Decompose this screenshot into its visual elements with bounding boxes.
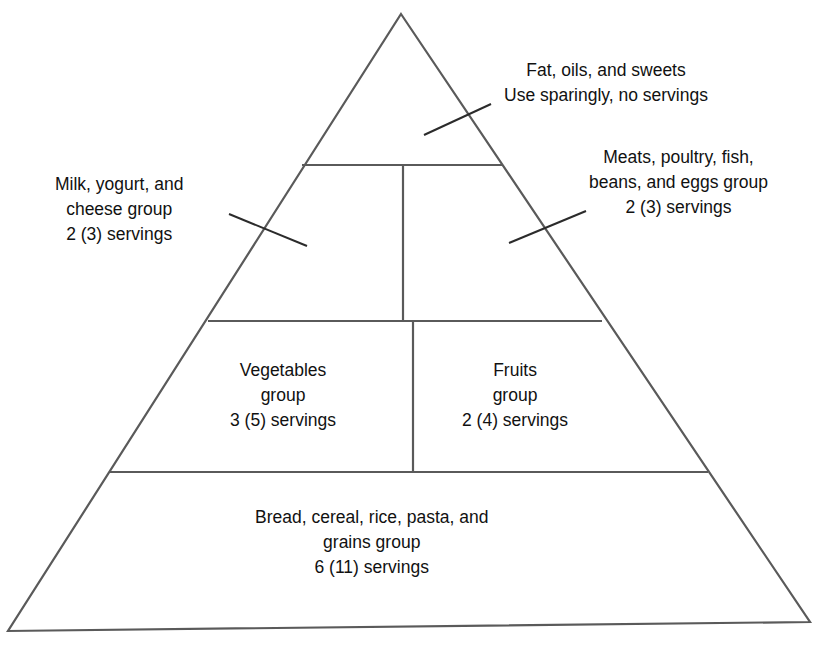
label-grains-line1: Bread, cereal, rice, pasta, and <box>255 505 488 530</box>
label-milk-line1: Milk, yogurt, and <box>55 172 183 197</box>
label-milk-group: Milk, yogurt, and cheese group 2 (3) ser… <box>55 172 183 247</box>
label-meats-servings: 2 (3) servings <box>589 195 768 220</box>
label-grains-line2: grains group <box>255 530 488 555</box>
label-fats-oils-sweets: Fat, oils, and sweets Use sparingly, no … <box>504 58 708 108</box>
label-milk-line2: cheese group <box>55 197 183 222</box>
label-vegetables-group: Vegetables group 3 (5) servings <box>230 358 336 433</box>
label-meats-line1: Meats, poultry, fish, <box>589 145 768 170</box>
label-vegetables-line1: Vegetables <box>230 358 336 383</box>
label-vegetables-servings: 3 (5) servings <box>230 408 336 433</box>
label-meats-line2: beans, and eggs group <box>589 170 768 195</box>
label-grains-group: Bread, cereal, rice, pasta, and grains g… <box>255 505 488 580</box>
label-fruits-line1: Fruits <box>462 358 568 383</box>
label-fruits-line2: group <box>462 383 568 408</box>
label-grains-servings: 6 (11) servings <box>255 555 488 580</box>
label-vegetables-line2: group <box>230 383 336 408</box>
label-meats-group: Meats, poultry, fish, beans, and eggs gr… <box>589 145 768 220</box>
label-milk-servings: 2 (3) servings <box>55 222 183 247</box>
label-fruits-servings: 2 (4) servings <box>462 408 568 433</box>
label-fruits-group: Fruits group 2 (4) servings <box>462 358 568 433</box>
label-fats-servings: Use sparingly, no servings <box>504 83 708 108</box>
food-pyramid-figure: Fat, oils, and sweets Use sparingly, no … <box>0 0 818 648</box>
label-fats-line1: Fat, oils, and sweets <box>504 58 708 83</box>
